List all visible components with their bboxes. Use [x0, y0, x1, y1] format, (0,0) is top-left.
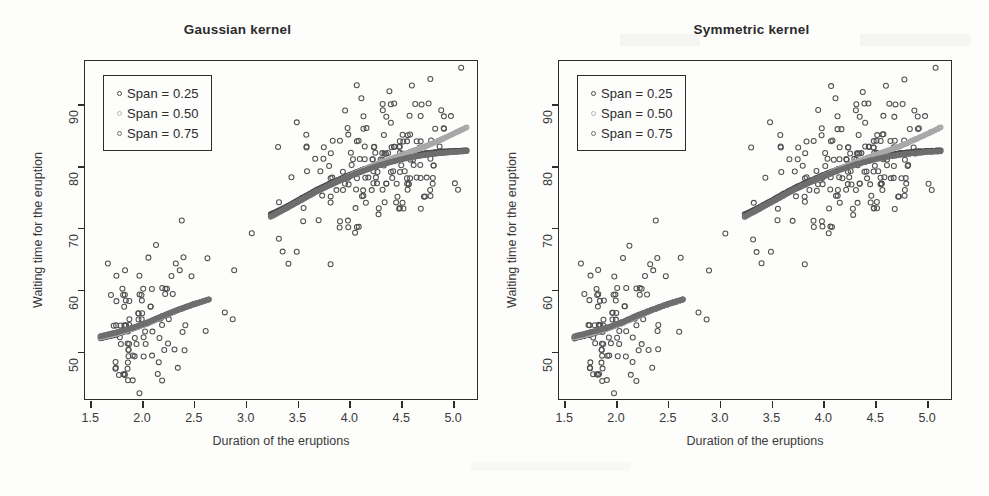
y-axis-tick-label: 80: [541, 164, 555, 194]
figure-canvas: Gaussian kernel Waiting time for the eru…: [0, 0, 989, 496]
y-axis-title: Waiting time for the eruption: [504, 60, 520, 400]
legend-item: Span = 0.75: [586, 123, 673, 143]
legend-symmetric: Span = 0.25 Span = 0.50 Span = 0.75: [577, 75, 686, 151]
x-axis-tick-label: 3.0: [237, 411, 254, 425]
legend-item: Span = 0.75: [112, 123, 199, 143]
x-axis-tick-label: 3.5: [763, 411, 780, 425]
legend-gaussian: Span = 0.25 Span = 0.50 Span = 0.75: [103, 75, 212, 151]
x-axis-tick-label: 4.0: [341, 411, 358, 425]
panel-title: Symmetric kernel: [534, 22, 969, 37]
x-axis-tick-label: 1.5: [555, 411, 572, 425]
x-axis-tick: [298, 401, 300, 408]
x-axis-tick: [349, 401, 351, 408]
x-axis-tick-label: 4.5: [867, 411, 884, 425]
x-axis-tick: [194, 401, 196, 408]
y-axis-tick-label: 50: [67, 350, 81, 380]
y-axis-title: Waiting time for the eruption: [30, 60, 46, 400]
plot-area-gaussian: Span = 0.25 Span = 0.50 Span = 0.75 5060…: [84, 60, 478, 400]
circle-icon: [112, 91, 127, 96]
circle-icon: [112, 131, 127, 136]
legend-label: Span = 0.75: [601, 126, 673, 141]
x-axis-tick: [246, 401, 248, 408]
x-axis-tick: [453, 401, 455, 408]
legend-label: Span = 0.25: [601, 86, 673, 101]
legend-item: Span = 0.50: [112, 103, 199, 123]
x-axis-tick: [720, 401, 722, 408]
x-axis-tick-label: 2.5: [185, 411, 202, 425]
x-axis-tick-label: 1.5: [81, 411, 98, 425]
x-axis-tick-label: 3.0: [711, 411, 728, 425]
x-axis-tick-label: 2.0: [133, 411, 150, 425]
y-axis-tick-label: 90: [541, 102, 555, 132]
x-axis-tick: [823, 401, 825, 408]
circle-icon: [112, 111, 127, 116]
x-axis-tick: [90, 401, 92, 408]
x-axis-tick: [668, 401, 670, 408]
circle-icon: [586, 131, 601, 136]
legend-label: Span = 0.75: [127, 126, 199, 141]
y-axis-tick-label: 60: [541, 288, 555, 318]
x-axis-tick: [875, 401, 877, 408]
x-axis-tick-label: 2.5: [659, 411, 676, 425]
x-axis-tick-label: 4.0: [815, 411, 832, 425]
y-axis-tick-label: 50: [541, 350, 555, 380]
x-axis-tick-label: 3.5: [289, 411, 306, 425]
y-axis-tick-label: 70: [67, 226, 81, 256]
x-axis-tick: [401, 401, 403, 408]
plot-area-symmetric: Span = 0.25 Span = 0.50 Span = 0.75 5060…: [558, 60, 952, 400]
y-axis-tick-label: 60: [67, 288, 81, 318]
x-axis-tick-label: 5.0: [444, 411, 461, 425]
x-axis-title: Duration of the eruptions: [84, 434, 478, 448]
legend-label: Span = 0.50: [127, 106, 199, 121]
panel-title: Gaussian kernel: [20, 22, 455, 37]
y-axis-tick-label: 90: [67, 102, 81, 132]
legend-item: Span = 0.25: [112, 83, 199, 103]
legend-label: Span = 0.25: [127, 86, 199, 101]
y-axis-tick-label: 70: [541, 226, 555, 256]
legend-item: Span = 0.50: [586, 103, 673, 123]
x-axis-tick-label: 5.0: [918, 411, 935, 425]
panel-gaussian-kernel: Gaussian kernel Waiting time for the eru…: [0, 0, 495, 496]
panel-symmetric-kernel: Symmetric kernel Waiting time for the er…: [474, 0, 989, 496]
legend-label: Span = 0.50: [601, 106, 673, 121]
y-axis-tick-label: 80: [67, 164, 81, 194]
circle-icon: [586, 111, 601, 116]
x-axis-tick: [772, 401, 774, 408]
x-axis-tick: [927, 401, 929, 408]
x-axis-tick-label: 2.0: [607, 411, 624, 425]
x-axis-tick: [616, 401, 618, 408]
x-axis-tick: [142, 401, 144, 408]
x-axis-tick-label: 4.5: [393, 411, 410, 425]
circle-icon: [586, 91, 601, 96]
legend-item: Span = 0.25: [586, 83, 673, 103]
x-axis-title: Duration of the eruptions: [558, 434, 952, 448]
x-axis-tick: [564, 401, 566, 408]
